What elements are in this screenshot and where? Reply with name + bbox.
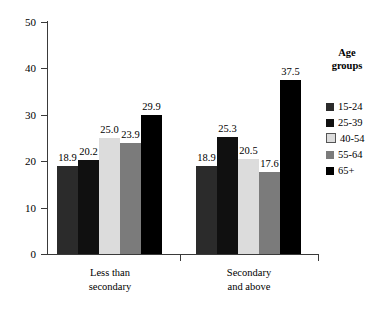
- y-axis-tick: [41, 22, 48, 23]
- legend-item-label: 55-64: [338, 149, 363, 160]
- legend: Age groups 15-2425-3940-5455-6465+: [325, 46, 370, 72]
- y-axis-tick: [41, 115, 48, 116]
- legend-title: Age groups: [325, 46, 369, 72]
- bar-value-label: 29.9: [135, 102, 169, 113]
- y-axis-tick-label: 10: [0, 203, 36, 214]
- bar: [259, 172, 280, 254]
- bar-value-label: 37.5: [274, 67, 308, 78]
- y-axis-tick-label: 50: [0, 17, 36, 28]
- category-label-line: Less than: [50, 266, 170, 280]
- bar: [99, 138, 120, 254]
- legend-title-line2: groups: [325, 59, 369, 72]
- y-axis-tick: [41, 254, 48, 255]
- legend-item-25-39[interactable]: 25-39: [326, 112, 363, 124]
- legend-swatch-icon: [326, 103, 334, 111]
- x-axis-tick-end: [318, 254, 319, 261]
- legend-swatch-icon: [326, 119, 334, 127]
- bar-value-label: 25.3: [211, 124, 245, 135]
- y-axis-tick-label: 0: [0, 249, 36, 260]
- legend-item-label: 65+: [338, 165, 354, 176]
- bar: [196, 166, 217, 254]
- x-axis-tick-separator: [180, 254, 181, 261]
- legend-item-label: 15-24: [338, 101, 363, 112]
- legend-title-line1: Age: [325, 46, 369, 59]
- y-axis-tick-label: 20: [0, 156, 36, 167]
- bar: [238, 159, 259, 254]
- bar: [57, 166, 78, 254]
- y-axis-line: [47, 21, 48, 255]
- bar: [141, 115, 162, 254]
- bar: [120, 143, 141, 254]
- legend-item-label: 40-54: [340, 133, 365, 144]
- category-label: Secondaryand above: [189, 266, 309, 294]
- legend-item-15-24[interactable]: 15-24: [326, 96, 363, 108]
- legend-swatch-icon: [326, 167, 334, 175]
- y-axis-tick-label: 40: [0, 63, 36, 74]
- legend-swatch-icon: [326, 133, 336, 143]
- y-axis-tick: [41, 208, 48, 209]
- category-label-line: Secondary: [189, 266, 309, 280]
- legend-item-65plus[interactable]: 65+: [326, 160, 354, 172]
- x-axis-line: [47, 254, 318, 255]
- y-axis-tick-label: 30: [0, 110, 36, 121]
- legend-swatch-icon: [326, 151, 334, 159]
- bar-value-label: 20.5: [232, 146, 266, 157]
- bar: [78, 160, 99, 254]
- y-axis-tick: [41, 68, 48, 69]
- legend-item-label: 25-39: [338, 117, 363, 128]
- bar: [280, 80, 301, 254]
- legend-item-55-64[interactable]: 55-64: [326, 144, 363, 156]
- category-label-line: and above: [189, 280, 309, 294]
- bar-chart: 50403020100 18.920.225.023.929.918.925.3…: [0, 0, 370, 309]
- category-label: Less thansecondary: [50, 266, 170, 294]
- y-axis-tick: [41, 161, 48, 162]
- category-label-line: secondary: [50, 280, 170, 294]
- legend-item-40-54[interactable]: 40-54: [326, 128, 365, 140]
